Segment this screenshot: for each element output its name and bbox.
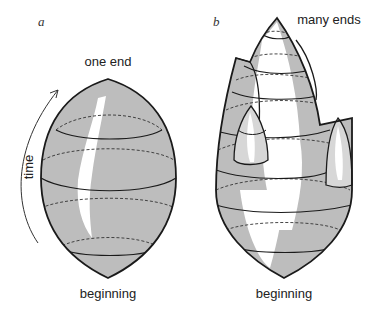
panel-b: b many ends <box>213 12 361 301</box>
panel-b-letter: b <box>213 14 220 29</box>
multiverse-shape <box>216 18 352 278</box>
many-ends-label: many ends <box>297 12 361 27</box>
panel-a-letter: a <box>38 14 45 29</box>
beginning-label-a: beginning <box>80 286 136 301</box>
panel-a: a one end <box>21 14 176 301</box>
beginning-label-b: beginning <box>256 286 312 301</box>
one-end-label: one end <box>85 54 132 69</box>
time-axis-label: time <box>21 155 36 180</box>
diagram-canvas: a one end <box>0 0 368 318</box>
single-universe-shape <box>41 79 176 278</box>
